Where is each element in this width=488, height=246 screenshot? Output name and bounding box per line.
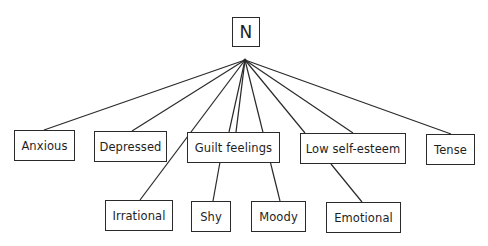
edge-n-depressed <box>132 60 245 131</box>
node-label: Low self-esteem <box>306 142 401 156</box>
node-label: Irrational <box>113 209 166 223</box>
edge-guilt-shy <box>213 162 220 201</box>
node-label: Shy <box>200 210 222 224</box>
node-root-n: N <box>232 17 260 47</box>
node-moody: Moody <box>251 201 306 232</box>
node-label: Anxious <box>21 139 67 153</box>
node-depressed: Depressed <box>94 131 167 162</box>
node-guilt-feelings: Guilt feelings <box>187 132 280 163</box>
edge-n-selfesteem-2 <box>245 60 353 133</box>
node-label: Emotional <box>334 211 393 225</box>
node-shy: Shy <box>191 201 231 232</box>
node-label: N <box>240 22 253 42</box>
node-label: Guilt feelings <box>195 141 272 155</box>
node-anxious: Anxious <box>14 130 75 161</box>
tree-diagram: N Anxious Depressed Guilt feelings Low s… <box>0 0 488 246</box>
node-label: Moody <box>259 210 298 224</box>
node-label: Tense <box>434 143 467 157</box>
node-tense: Tense <box>426 134 475 165</box>
edge-n-anxious <box>44 60 245 130</box>
edge-selfesteem-emotional <box>331 164 362 202</box>
hub-point <box>243 58 246 61</box>
node-emotional: Emotional <box>326 202 401 233</box>
node-label: Depressed <box>99 140 161 154</box>
node-low-self-esteem: Low self-esteem <box>300 133 406 164</box>
node-irrational: Irrational <box>105 200 173 231</box>
